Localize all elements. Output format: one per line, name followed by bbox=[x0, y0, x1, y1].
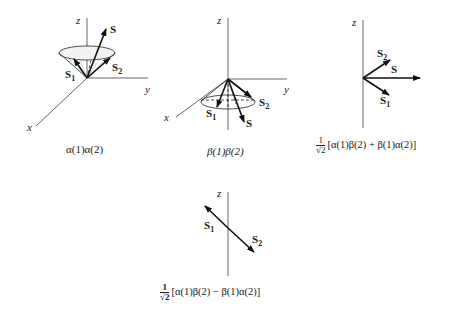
z-axis-label: z bbox=[352, 17, 356, 28]
S2-label: S2 bbox=[259, 97, 269, 111]
S2-label: S2 bbox=[112, 62, 122, 76]
spin-vector-diagrams bbox=[0, 0, 464, 323]
S-label: S bbox=[246, 118, 252, 129]
S2-label: S2 bbox=[377, 48, 387, 62]
S-label: S bbox=[391, 64, 397, 75]
caption-alpha-alpha: α(1)α(2) bbox=[66, 144, 103, 155]
x-axis bbox=[36, 78, 87, 126]
caption-triplet-zero: 1√2[α(1)β(2) + β(1)α(2)] bbox=[316, 136, 416, 155]
S1-label: S1 bbox=[206, 108, 216, 122]
y-axis-label: y bbox=[145, 84, 150, 95]
one-over-root-two: 1√2 bbox=[160, 283, 169, 302]
one-over-root-two: 1√2 bbox=[316, 136, 325, 155]
S-label: S bbox=[110, 24, 116, 35]
vector-S2 bbox=[228, 228, 254, 252]
panel-beta-beta bbox=[176, 18, 287, 130]
vector-S2 bbox=[363, 60, 390, 78]
S1-label: S1 bbox=[65, 69, 75, 83]
z-axis-label: z bbox=[217, 15, 221, 26]
y-axis-label: y bbox=[284, 84, 289, 95]
S2-label: S2 bbox=[252, 234, 262, 248]
caption-beta-beta: β(1)β(2) bbox=[207, 146, 244, 157]
x-axis-label: x bbox=[164, 112, 169, 123]
z-axis-label: z bbox=[217, 188, 221, 199]
z-axis-label: z bbox=[76, 15, 80, 26]
panel-alpha-alpha bbox=[36, 18, 148, 126]
S1-label: S1 bbox=[380, 95, 390, 109]
vector-S1 bbox=[363, 78, 389, 95]
caption-singlet: 1√2[α(1)β(2) − β(1)α(2)] bbox=[160, 283, 260, 302]
S1-label: S1 bbox=[204, 220, 214, 234]
x-axis-label: x bbox=[27, 122, 32, 133]
